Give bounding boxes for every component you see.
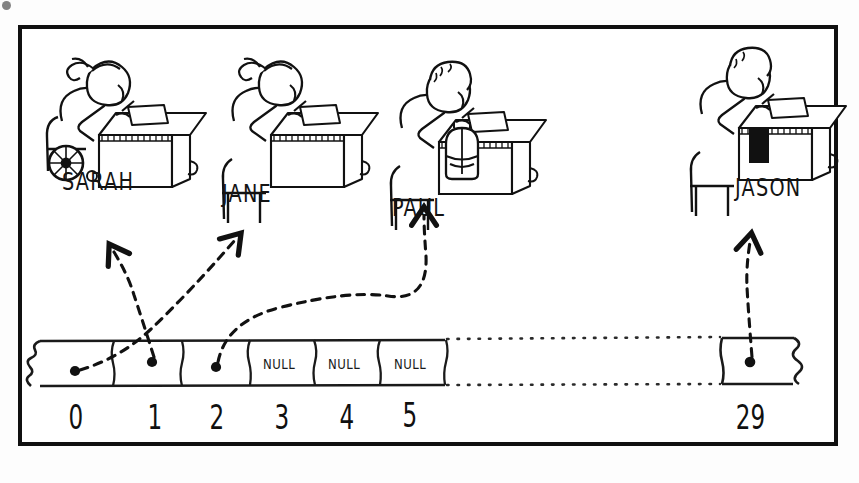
array-index-label-29: 29 xyxy=(736,398,765,436)
figure-canvas: SARAH JANE PAUL JASON xyxy=(0,0,859,483)
array-cell-value-4: NULL xyxy=(328,355,360,372)
array-index-label-3: 3 xyxy=(274,398,289,436)
array-index-label-1: 1 xyxy=(147,398,162,436)
student-name-sarah: SARAH xyxy=(62,168,134,196)
array-index-label-0: 0 xyxy=(68,398,83,436)
student-name-paul: PAUL xyxy=(392,194,445,222)
array-cell-value-5: NULL xyxy=(394,355,426,372)
figure-border xyxy=(18,25,838,446)
array-index-label-5: 5 xyxy=(402,396,417,434)
student-name-jane: JANE xyxy=(222,180,272,208)
page-corner-mark xyxy=(2,1,11,10)
array-index-label-4: 4 xyxy=(339,398,354,436)
array-index-label-2: 2 xyxy=(209,398,224,436)
array-cell-value-3: NULL xyxy=(263,355,295,372)
student-name-jason: JASON xyxy=(735,174,801,202)
